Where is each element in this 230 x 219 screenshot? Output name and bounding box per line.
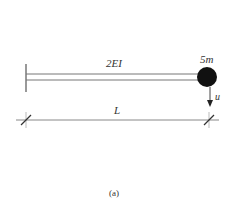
lumped-mass bbox=[197, 67, 217, 87]
displacement-label: u bbox=[215, 91, 220, 102]
beam bbox=[26, 74, 205, 80]
figure-caption: (a) bbox=[109, 188, 119, 198]
length-label: L bbox=[113, 104, 120, 116]
displacement-arrow-icon bbox=[207, 87, 213, 107]
stiffness-label: 2EI bbox=[106, 57, 123, 69]
mass-label: 5m bbox=[200, 53, 214, 65]
cantilever-diagram: 2EI 5m u L (a) bbox=[0, 0, 230, 219]
